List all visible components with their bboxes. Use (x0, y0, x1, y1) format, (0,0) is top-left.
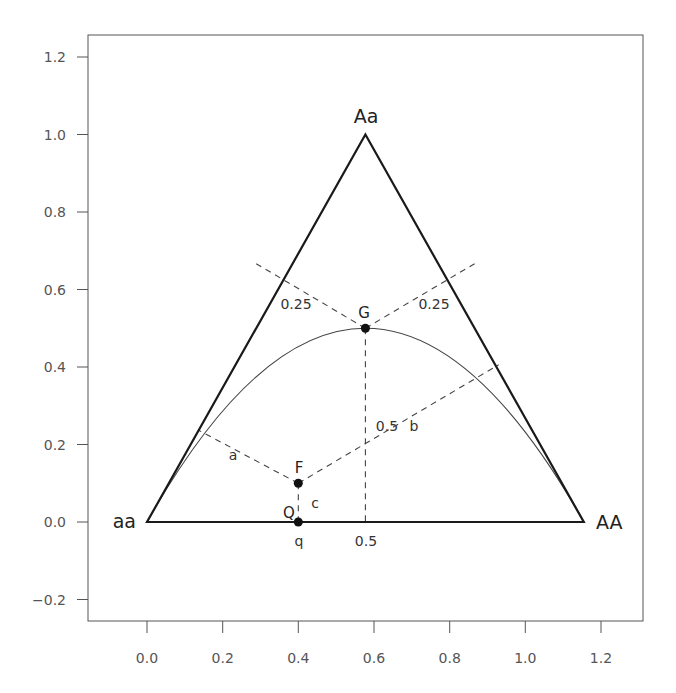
annot-q: q (295, 533, 304, 549)
hardy-weinberg-curve (147, 328, 584, 522)
vertex-label-Aa: Aa (354, 105, 379, 127)
dashed-f-a (199, 430, 299, 483)
x-tick-label: 1.2 (590, 650, 612, 666)
dashed-f-b (298, 365, 498, 484)
vertex-label-aa: aa (113, 510, 136, 532)
x-tick-label: 0.8 (439, 650, 461, 666)
y-tick-label: 0.6 (44, 282, 66, 298)
point-f (294, 479, 303, 488)
y-tick-label: 1.0 (44, 127, 66, 143)
x-tick-labels: 0.0 0.2 0.4 0.6 0.8 1.0 1.2 (136, 650, 612, 666)
x-tick-label: 0.2 (212, 650, 234, 666)
x-tick-label: 0.6 (363, 650, 385, 666)
annot-c: c (311, 495, 319, 511)
point-label-f: F (295, 459, 304, 477)
point-label-g: G (358, 304, 370, 322)
y-tick-label: 1.2 (44, 49, 66, 65)
annot-a: a (229, 447, 238, 463)
annot-b: b (410, 418, 419, 434)
x-tick-label: 1.0 (514, 650, 536, 666)
y-tick-labels: −0.2 0.0 0.2 0.4 0.6 0.8 1.0 1.2 (32, 49, 66, 608)
annot-025-left: 0.25 (280, 296, 311, 312)
y-tick-label: 0.2 (44, 437, 66, 453)
y-tick-label: 0.8 (44, 204, 66, 220)
annot-05-mid: 0.5 (376, 418, 398, 434)
point-g (361, 324, 370, 333)
x-axis (147, 621, 601, 633)
x-tick-label: 0.0 (136, 650, 158, 666)
y-tick-label: 0.4 (44, 359, 66, 375)
point-label-q: Q (283, 504, 295, 522)
dashed-segments (199, 264, 499, 522)
annot-025-right: 0.25 (418, 296, 449, 312)
y-tick-label: 0.0 (44, 514, 66, 530)
y-tick-label: −0.2 (32, 592, 66, 608)
x-tick-label: 0.4 (287, 650, 309, 666)
point-q (294, 518, 303, 527)
de-finetti-chart: −0.2 0.0 0.2 0.4 0.6 0.8 1.0 1.2 0.0 0.2… (0, 0, 676, 693)
y-axis (77, 57, 88, 600)
annot-05-base: 0.5 (355, 533, 377, 549)
vertex-label-AA: AA (596, 511, 623, 533)
